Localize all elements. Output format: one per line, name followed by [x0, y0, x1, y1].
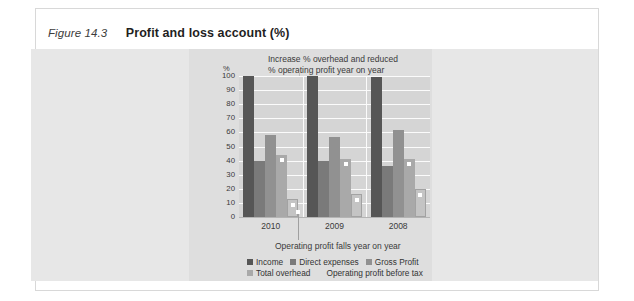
bar-2009-income[interactable]: [307, 76, 318, 217]
figure-title: Profit and loss account (%): [126, 26, 290, 40]
legend-item-operating-profit-before-tax[interactable]: Operating profit before tax: [317, 268, 422, 278]
y-axis-tick-label: 60: [213, 128, 235, 136]
bar-2008-operating-profit-before-tax[interactable]: [415, 189, 426, 217]
legend-item-income[interactable]: Income: [247, 257, 283, 267]
legend-swatch-icon: [366, 259, 372, 265]
y-axis-tick-label: 90: [213, 86, 235, 94]
bar-2010-gross-profit[interactable]: [265, 135, 276, 217]
bar-2010-total-overhead[interactable]: [276, 155, 287, 217]
bar-2009-gross-profit[interactable]: [329, 137, 340, 217]
legend-label: Total overhead: [256, 268, 310, 278]
legend-item-direct-expenses[interactable]: Direct expenses: [290, 257, 359, 267]
y-axis-tick-label: 30: [213, 171, 235, 179]
legend-row-1: IncomeDirect expensesGross Profit: [247, 256, 477, 267]
chart-canvas: Increase % overhead and reduced % operat…: [31, 49, 598, 281]
annotation-operating-profit-falls: Operating profit falls year on year: [275, 241, 401, 251]
y-axis-tick-label: 50: [213, 143, 235, 151]
figure-frame: Figure 14.3 Profit and loss account (%) …: [35, 8, 599, 291]
legend-label: Direct expenses: [299, 257, 359, 267]
bar-2008-direct-expenses[interactable]: [382, 166, 393, 217]
y-axis-ticks: 1009080706050403020100: [211, 76, 235, 217]
legend-swatch-icon: [247, 259, 253, 265]
category-separator-gridline: [303, 76, 304, 217]
bar-2009-operating-profit-before-tax[interactable]: [351, 194, 362, 217]
bar-2009-total-overhead[interactable]: [340, 159, 351, 217]
y-axis-tick-label: 100: [213, 72, 235, 80]
figure-caption: Figure 14.3 Profit and loss account (%): [48, 23, 290, 41]
annotation-bottom-leader-dot: [296, 210, 300, 214]
legend-label: Income: [256, 257, 283, 267]
legend-label: Gross Profit: [375, 257, 419, 267]
data-point-marker: [280, 158, 284, 162]
bar-2010-income[interactable]: [243, 76, 254, 217]
bar-2008-gross-profit[interactable]: [393, 130, 404, 217]
legend-swatch-icon: [247, 270, 253, 276]
bar-2009-direct-expenses[interactable]: [318, 161, 329, 217]
x-axis-baseline: [239, 217, 430, 218]
data-point-marker: [418, 193, 422, 197]
x-axis-tick-label-2010: 2010: [241, 221, 301, 231]
bar-2008-total-overhead[interactable]: [404, 159, 415, 217]
y-axis-tick-label: 20: [213, 185, 235, 193]
bar-2008-income[interactable]: [371, 77, 382, 217]
legend-row-2: Total overheadOperating profit before ta…: [247, 267, 477, 278]
bar-2010-direct-expenses[interactable]: [254, 161, 265, 217]
chart-legend: IncomeDirect expensesGross Profit Total …: [247, 256, 477, 278]
y-axis-tick-label: 80: [213, 100, 235, 108]
annotation-overhead-line1: Increase % overhead and reduced: [268, 54, 443, 65]
y-axis-tick-label: 40: [213, 157, 235, 165]
data-point-marker: [291, 203, 295, 207]
plot-area: [239, 76, 430, 217]
bar-2010-operating-profit-before-tax[interactable]: [287, 199, 298, 217]
legend-swatch-icon: [290, 259, 296, 265]
legend-label: Operating profit before tax: [326, 268, 422, 278]
bar-group-2010: [243, 76, 298, 217]
figure-number: Figure 14.3: [48, 27, 107, 39]
y-axis-tick-label: 70: [213, 114, 235, 122]
annotation-overhead-line2: % operating profit year on year: [268, 65, 443, 76]
bar-group-2009: [307, 76, 362, 217]
legend-item-total-overhead[interactable]: Total overhead: [247, 268, 310, 278]
data-point-marker: [407, 162, 411, 166]
y-axis-tick-label: 0: [213, 213, 235, 221]
x-axis-tick-label-2009: 2009: [305, 221, 365, 231]
annotation-overhead-increase: Increase % overhead and reduced % operat…: [268, 54, 443, 75]
category-separator-gridline: [366, 76, 367, 217]
x-axis-tick-label-2008: 2008: [368, 221, 428, 231]
legend-item-gross-profit[interactable]: Gross Profit: [366, 257, 419, 267]
data-point-marker: [355, 198, 359, 202]
bar-group-2008: [371, 76, 426, 217]
y-axis-tick-label: 10: [213, 199, 235, 207]
data-point-marker: [344, 162, 348, 166]
